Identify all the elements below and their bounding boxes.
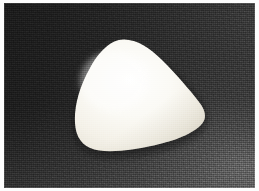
rounded-triangular-object xyxy=(4,3,255,188)
photograph-frame: Pale rounded-triangular object on a dark… xyxy=(0,0,259,191)
photograph-plate xyxy=(4,3,255,188)
object-highlight xyxy=(80,51,148,111)
